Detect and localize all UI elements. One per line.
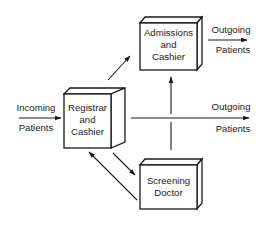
registrar-to-admissions-arrow	[108, 56, 130, 80]
screening-to-registrar-arrow	[89, 152, 137, 200]
screening-label: Screening Doctor	[140, 175, 197, 199]
registrar-to-screening-arrow	[113, 153, 135, 175]
outgoing-mid-label-top: Outgoing	[208, 101, 254, 113]
admissions-label: Admissions and Cashier	[140, 27, 197, 63]
registrar-label-line3: Cashier	[64, 126, 111, 138]
incoming-label-top: Incoming	[14, 102, 58, 114]
screening-label-line1: Screening	[140, 175, 197, 187]
incoming-label-bottom: Patients	[14, 122, 58, 134]
outgoing-mid-label-bottom: Patients	[210, 123, 256, 135]
registrar-label-line2: and	[64, 114, 111, 126]
outgoing-top-label-bottom: Patients	[210, 44, 256, 56]
admissions-label-line3: Cashier	[140, 51, 197, 63]
admissions-label-line2: and	[140, 39, 197, 51]
screening-label-line2: Doctor	[140, 187, 197, 199]
registrar-label-line1: Registrar	[64, 102, 111, 114]
outgoing-top-label-top: Outgoing	[208, 24, 254, 36]
admissions-label-line1: Admissions	[140, 27, 197, 39]
registrar-label: Registrar and Cashier	[64, 102, 111, 138]
